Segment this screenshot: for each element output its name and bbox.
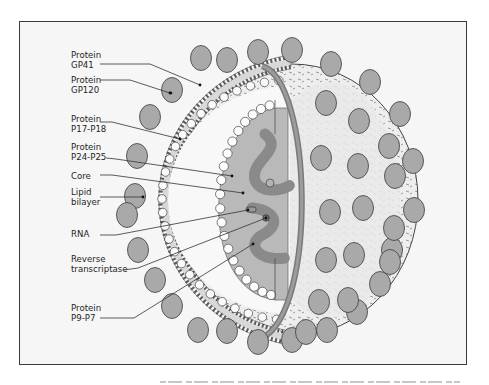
spike-knob — [117, 203, 138, 228]
spike-knob — [217, 48, 238, 73]
label-text: Protein — [71, 75, 101, 85]
spike-knob — [380, 250, 401, 275]
label-p17: ProteinP17-P18 — [71, 114, 181, 140]
label-text: P9-P7 — [71, 313, 95, 323]
label-text: Core — [71, 171, 91, 181]
spike-knob — [348, 154, 369, 179]
label-text: Protein — [71, 303, 101, 313]
spike-knob — [379, 134, 400, 159]
spike-knob — [404, 198, 425, 223]
spike-knob — [316, 91, 337, 116]
label-text: transcriptase — [71, 264, 128, 274]
spike-knob — [316, 248, 337, 273]
spike-knob — [282, 38, 303, 63]
label-text: bilayer — [71, 197, 101, 207]
label-gp120: ProteinGP120 — [71, 75, 171, 95]
leader-dot — [231, 175, 234, 178]
spike-knob — [217, 319, 238, 344]
leader-dot — [242, 192, 245, 195]
spike-knob — [296, 320, 317, 345]
label-text: RNA — [71, 229, 89, 239]
leader-dot — [199, 84, 202, 87]
spike-knob — [248, 330, 269, 355]
label-text: Protein — [71, 142, 101, 152]
spike-knob — [128, 238, 149, 263]
label-text: P17-P18 — [71, 124, 106, 134]
spike-knob — [145, 268, 166, 293]
spike-knob — [338, 288, 359, 313]
spike-knob — [309, 290, 330, 315]
hiv-virion-diagram: ProteinGP41ProteinGP120ProteinP17-P18Pro… — [0, 0, 489, 385]
leader-dot — [142, 196, 145, 199]
leader-line — [100, 80, 170, 93]
spike-knob — [191, 46, 212, 71]
spike-knob — [311, 146, 332, 171]
spike-knob — [385, 164, 406, 189]
spike-knob — [140, 105, 161, 130]
cut-off-caption — [0, 378, 489, 385]
leader-dot — [265, 217, 268, 220]
spike-knob — [390, 102, 411, 127]
spike-knob — [188, 318, 209, 343]
spike-knob — [162, 78, 183, 103]
label-text: P24-P25 — [71, 152, 106, 162]
spike-knob — [370, 272, 391, 297]
label-text: GP41 — [71, 60, 94, 70]
spike-knob — [321, 52, 342, 77]
leader-dot — [247, 209, 250, 212]
label-text: Lipid — [71, 187, 91, 197]
leader-dot — [252, 243, 255, 246]
spike-knob — [403, 149, 424, 174]
spike-knob — [162, 294, 183, 319]
spike-knob — [248, 40, 269, 65]
label-text: GP120 — [71, 85, 99, 95]
leader-line — [100, 122, 180, 139]
spike-knob — [344, 243, 365, 268]
label-text: Protein — [71, 50, 101, 60]
spike-knob — [353, 196, 374, 221]
spike-knob — [317, 318, 338, 343]
spike-knob — [320, 200, 341, 225]
spike-knob — [384, 216, 405, 241]
label-text: Protein — [71, 114, 101, 124]
label-text: Reverse — [71, 254, 106, 264]
spike-knob — [127, 144, 148, 169]
spike-knob — [349, 109, 370, 134]
spike-knob — [360, 70, 381, 95]
leader-dot — [179, 138, 182, 141]
leader-dot — [169, 92, 172, 95]
leader-line — [100, 64, 200, 85]
